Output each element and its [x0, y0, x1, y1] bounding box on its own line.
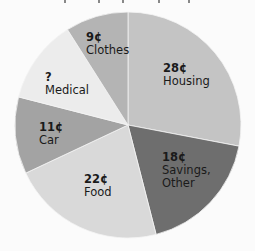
slice-label-clothes: 9¢ Clothes — [86, 31, 129, 57]
slice-name: Housing — [163, 75, 210, 88]
slice-name: Medical — [45, 84, 89, 97]
slice-name: Food — [84, 186, 112, 199]
slice-name: Clothes — [86, 44, 129, 57]
slice-label-medical: ? Medical — [45, 71, 89, 97]
slice-name-line2: Other — [162, 177, 211, 190]
slice-label-savings: 18¢ Savings, Other — [162, 151, 211, 190]
slice-label-housing: 28¢ Housing — [163, 62, 210, 88]
slice-label-car: 11¢ Car — [39, 121, 63, 147]
slice-label-food: 22¢ Food — [84, 173, 112, 199]
slice-name: Car — [39, 134, 63, 147]
